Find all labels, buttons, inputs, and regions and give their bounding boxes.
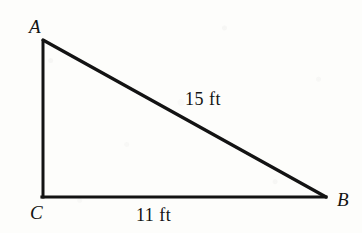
vertex-label-c: C	[30, 203, 43, 222]
triangle-figure: A C B 15 ft 11 ft	[0, 0, 362, 233]
vertex-label-a: A	[29, 17, 41, 36]
vertex-label-b: B	[337, 190, 349, 209]
triangle-drawing	[0, 0, 362, 233]
side-length-label-base: 11 ft	[136, 206, 171, 224]
triangle-side-hypotenuse-ab	[43, 40, 326, 197]
side-length-label-hypotenuse: 15 ft	[185, 90, 221, 108]
